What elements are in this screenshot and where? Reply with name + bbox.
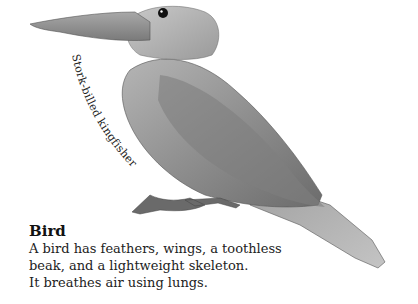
info-line-1: A bird has feathers, wings, a toothless <box>29 240 359 257</box>
info-line-3: It breathes air using lungs. <box>29 274 359 291</box>
info-line-2: beak, and a lightweight skeleton. <box>29 257 359 274</box>
info-title: Bird <box>29 222 359 240</box>
info-panel: Bird A bird has feathers, wings, a tooth… <box>29 222 359 291</box>
eye <box>158 8 168 18</box>
beak <box>30 12 150 41</box>
